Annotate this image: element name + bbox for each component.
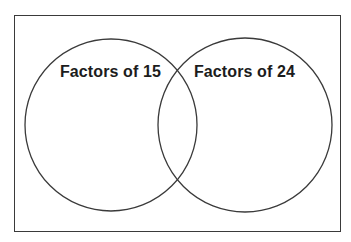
venn-diagram bbox=[0, 0, 351, 242]
label-factors-of-24: Factors of 24 bbox=[194, 63, 295, 81]
label-factors-of-15: Factors of 15 bbox=[60, 63, 161, 81]
